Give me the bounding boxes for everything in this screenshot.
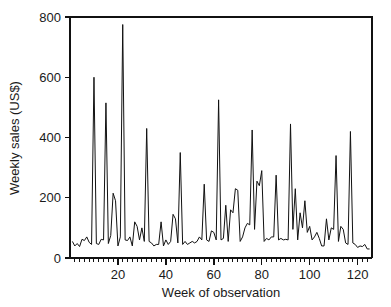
x-tick-label-120: 120 [347, 267, 369, 282]
x-tick-label-80: 80 [255, 267, 269, 282]
x-tick-label-40: 40 [159, 267, 173, 282]
x-tick-label-60: 60 [207, 267, 221, 282]
x-axis-tick-labels: 20406080100120 [111, 267, 369, 282]
y-axis-tick-labels: 0200400600800 [39, 10, 61, 266]
y-tick-label-200: 200 [39, 190, 61, 205]
y-tick-label-400: 400 [39, 130, 61, 145]
x-tick-label-20: 20 [111, 267, 125, 282]
x-axis-title: Week of observation [162, 285, 280, 300]
data-series-line [72, 25, 369, 249]
y-tick-label-0: 0 [54, 251, 61, 266]
y-tick-label-600: 600 [39, 70, 61, 85]
chart-figure: 0200400600800 20406080100120 Weekly sale… [0, 0, 391, 307]
x-tick-label-100: 100 [299, 267, 321, 282]
y-axis-title: Weekly sales (US$) [7, 81, 22, 195]
y-tick-label-800: 800 [39, 10, 61, 25]
weekly-sales-line-chart: 0200400600800 20406080100120 Weekly sale… [0, 0, 391, 307]
